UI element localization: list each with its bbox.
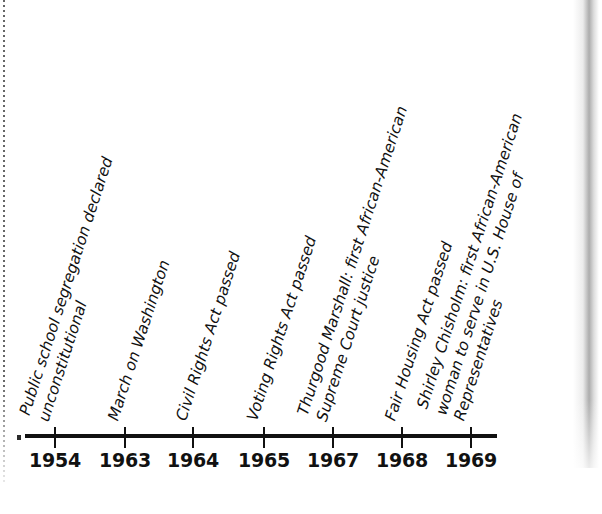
year-label-1969: 1969 <box>445 449 497 471</box>
tick-mark-1964 <box>192 427 194 448</box>
event-label-1963: March on Washington <box>104 258 174 424</box>
event-label-line: Representatives <box>450 124 564 424</box>
tick-mark-1954 <box>54 427 56 448</box>
tick-mark-1969 <box>470 427 472 448</box>
left-dotted-margin-rule <box>3 0 5 482</box>
event-label-line: Thurgood Marshall: first African-America… <box>294 104 413 418</box>
tick-mark-1967 <box>332 427 334 448</box>
event-label-line: Civil Rights Act passed <box>172 250 245 424</box>
year-label-1965: 1965 <box>238 449 290 471</box>
event-label-1964: Civil Rights Act passed <box>172 250 245 424</box>
event-label-line: woman to serve in U.S. House of <box>432 118 546 418</box>
event-label-line: Public school segregation declared <box>16 155 118 418</box>
tick-mark-1965 <box>263 427 265 448</box>
year-label-1964: 1964 <box>167 449 219 471</box>
event-label-line: unconstitutional <box>34 161 136 424</box>
tick-mark-1963 <box>124 427 126 448</box>
page-edge-shadow <box>573 0 599 468</box>
event-label-1969: Shirley Chisholm: first African-American… <box>413 111 564 424</box>
event-label-1954: Public school segregation declareduncons… <box>16 155 137 424</box>
event-label-line: March on Washington <box>104 258 174 424</box>
year-label-1954: 1954 <box>29 449 81 471</box>
page-edge-shadow-fade <box>568 400 602 514</box>
tick-mark-1968 <box>401 427 403 448</box>
stray-ink-speck <box>17 435 21 440</box>
timeline-axis-line <box>25 434 497 438</box>
timeline-figure: Public school segregation declareduncons… <box>0 0 602 514</box>
event-label-1965: Voting Rights Act passed <box>243 234 321 424</box>
event-label-line: Supreme Court justice <box>312 110 431 424</box>
year-label-1967: 1967 <box>307 449 359 471</box>
year-label-1968: 1968 <box>376 449 428 471</box>
event-label-1967: Thurgood Marshall: first African-America… <box>294 104 431 424</box>
event-label-line: Shirley Chisholm: first African-American <box>413 111 527 411</box>
event-label-1968: Fair Housing Act passed <box>381 240 457 424</box>
event-label-line: Voting Rights Act passed <box>243 234 321 424</box>
event-label-line: Fair Housing Act passed <box>381 240 457 424</box>
year-label-1963: 1963 <box>99 449 151 471</box>
